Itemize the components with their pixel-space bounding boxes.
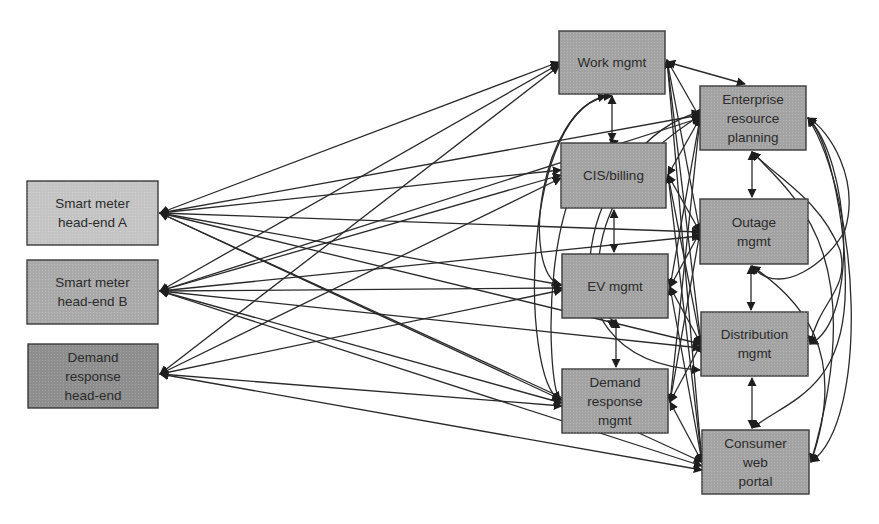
node-sm-b [27, 260, 158, 324]
connector-arrow [668, 175, 700, 232]
node-outage [700, 199, 808, 264]
node-dr-mgmt [562, 369, 668, 433]
connector-arrow [160, 213, 700, 232]
connector-arrow [160, 178, 561, 374]
node-dist [701, 312, 808, 376]
node-sm-a [27, 181, 158, 245]
connector-arrow [160, 291, 562, 403]
connector-arrow [160, 290, 562, 374]
node-cis [561, 143, 666, 208]
connector-arrow [160, 288, 562, 291]
integration-diagram [0, 0, 879, 524]
node-erp [700, 86, 806, 150]
connector-arrow [160, 66, 559, 374]
node-dr-he [28, 344, 158, 408]
connector-arrow [160, 62, 559, 213]
node-work [559, 31, 665, 94]
node-ev [562, 254, 668, 318]
connector-arrow [160, 374, 562, 406]
node-portal [702, 430, 809, 494]
